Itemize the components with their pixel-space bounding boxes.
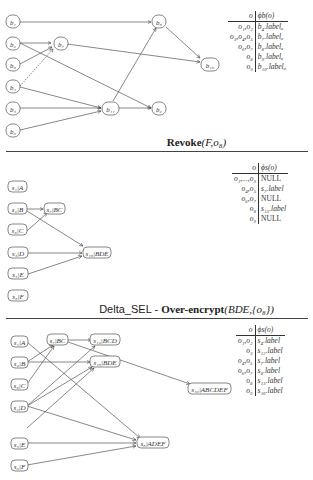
table-row: o₉NULL	[232, 214, 288, 224]
panel1-graph: b₁ b₂ b₃ b₄ b₅ b₆ b₇ b₈ b₉ b₁₀ b₁₁ s₁|A …	[0, 0, 313, 480]
node-s12-label: s₁₂|BCD	[93, 337, 117, 345]
table-header-object: o	[228, 11, 255, 22]
node-s1-label: s₁|A	[14, 339, 26, 347]
table-header-object: o	[236, 325, 255, 336]
panel3-mapping-table: o ϕs(o) o₁,o₂s₄.label o₃s₁₂.label o₄,o₅s…	[236, 325, 285, 396]
divider	[6, 318, 308, 319]
table-row: o₃,o₄,o₅b₇.labelₐ	[228, 32, 288, 42]
table-cell: o₈	[236, 376, 255, 386]
node-b4-label: b₄	[10, 84, 17, 92]
node-b3-label: b₃	[10, 62, 17, 70]
panel2-caption: Delta_SEL - Over-encrypt(BDE,{o₈})	[30, 303, 313, 315]
node-b10-label: b₁₀	[206, 62, 215, 70]
table-cell: o₉	[232, 214, 259, 224]
table-cell: NULL	[259, 214, 289, 224]
node-b7-label: b₇	[58, 41, 65, 49]
node-s3-label: s₃|C	[12, 227, 24, 235]
node-s2-label: s₂|B	[12, 206, 24, 214]
node-s8-label: s₈|ADEF	[141, 440, 167, 448]
caption-prefix: Delta_SEL -	[99, 303, 161, 315]
table-cell: o₆,o₇	[236, 366, 255, 376]
node-b11-label: b₁₁	[106, 106, 114, 114]
node-b8-label: b₈	[156, 19, 163, 27]
table-cell: b₈.labelₐ	[255, 42, 288, 52]
table-row: o₁,o₂s₄.label	[236, 336, 285, 347]
panel2-mapping-table: o ϕs(o) o₁,...,o₃NULL o₄,o₅s₇.label o₆,o…	[232, 163, 288, 224]
table-cell: s₁₀.label	[255, 386, 285, 396]
table-cell: o₃,o₄,o₅	[228, 32, 255, 42]
node-s7-label: s₇|BC	[46, 206, 62, 214]
table-cell: NULL	[259, 194, 289, 204]
table-row: o₆,o₇NULL	[232, 194, 288, 204]
node-s6-label: s₆|F	[12, 293, 24, 301]
panel1-caption: Revoke(F,o₈)	[40, 136, 313, 148]
table-header: o ϕs(o)	[232, 163, 288, 174]
table-cell: o₉	[236, 386, 255, 396]
table-header-phi: ϕb(o)	[255, 11, 288, 22]
table-cell: o₈	[228, 52, 255, 62]
table-cell: s₈.label	[255, 366, 285, 376]
table-cell: b₁₀.labelₐ	[255, 62, 288, 72]
table-header: o ϕb(o)	[228, 11, 288, 22]
caption-args: (BDE,{o₈})	[224, 303, 274, 315]
node-s4-label: s₄|D	[12, 250, 24, 258]
node-b2-label: b₂	[10, 41, 17, 49]
table-header-object: o	[232, 163, 259, 174]
table-cell: b₉.labelₐ	[255, 52, 288, 62]
table-row: o₉s₁₀.label	[236, 386, 285, 396]
node-s7-label: s₇|BC	[49, 337, 65, 345]
table-cell: o₄,o₅	[232, 184, 259, 194]
table-row: o₄,o₅s₇.label	[236, 356, 285, 366]
table-header-phi: ϕs(o)	[255, 325, 285, 336]
table-row: o₁,o₂b₄.labelₐ	[228, 22, 288, 33]
table-cell: o₈	[232, 204, 259, 214]
node-s2-label: s₂|B	[14, 360, 26, 368]
table-row: o₄,o₅s₇.label	[232, 184, 288, 194]
divider	[6, 151, 308, 152]
node-s6-label: s₆|F	[14, 463, 26, 471]
table-cell: s₇.label	[259, 184, 289, 194]
node-s4-label: s₄|D	[13, 404, 25, 412]
node-b1-label: b₁	[10, 19, 16, 27]
table-cell: s₁₃.label	[259, 204, 289, 214]
node-s13-label: s₁₃|BDE	[85, 250, 109, 258]
table-header-phi: ϕs(o)	[259, 163, 289, 174]
table-cell: s₄.label	[255, 336, 285, 347]
node-s5-label: s₅|E	[14, 441, 26, 449]
node-b5-label: b₅	[10, 106, 17, 114]
table-cell: s₇.label	[255, 356, 285, 366]
table-cell: o₆,o₇	[232, 194, 259, 204]
table-row: o₆,o₇s₈.label	[236, 366, 285, 376]
table-cell: b₄.labelₐ	[255, 22, 288, 33]
caption-args: (F,o₈)	[202, 136, 227, 148]
table-cell: o₁,o₂	[236, 336, 255, 347]
table-row: o₈s₁₃.label	[236, 376, 285, 386]
table-cell: NULL	[259, 174, 289, 185]
table-cell: o₃	[236, 346, 255, 356]
table-cell: s₁₃.label	[255, 376, 285, 386]
node-b6-label: b₆	[10, 128, 17, 136]
table-row: o₈b₉.labelₐ	[228, 52, 288, 62]
table-row: o₁,...,o₃NULL	[232, 174, 288, 185]
table-cell: o₉	[228, 62, 255, 72]
table-cell: o₄,o₅	[236, 356, 255, 366]
table-row: o₃s₁₂.label	[236, 346, 285, 356]
table-cell: o₆,o₇	[228, 42, 255, 52]
table-cell: s₁₂.label	[255, 346, 285, 356]
table-row: o₈s₁₃.label	[232, 204, 288, 214]
node-s1-label: s₁|A	[12, 184, 24, 192]
table-cell: o₁,...,o₃	[232, 174, 259, 185]
table-row: o₆,o₇b₈.labelₐ	[228, 42, 288, 52]
node-s5-label: s₅|E	[12, 271, 24, 279]
node-s10-label: s₁₀|ABCDEF	[191, 386, 228, 394]
node-b9-label: b₉	[156, 106, 163, 114]
table-cell: o₁,o₂	[228, 22, 255, 33]
table-cell: b₇.labelₐ	[255, 32, 288, 42]
table-row: o₉b₁₀.labelₐ	[228, 62, 288, 72]
caption-operation: Over-encrypt	[161, 303, 224, 315]
table-header: o ϕs(o)	[236, 325, 285, 336]
caption-operation: Revoke	[167, 136, 202, 148]
node-s13-label: s₁₃|BDE	[93, 359, 117, 367]
node-s3-label: s₃|C	[14, 382, 26, 390]
panel1-mapping-table: o ϕb(o) o₁,o₂b₄.labelₐ o₃,o₄,o₅b₇.labelₐ…	[228, 11, 288, 72]
